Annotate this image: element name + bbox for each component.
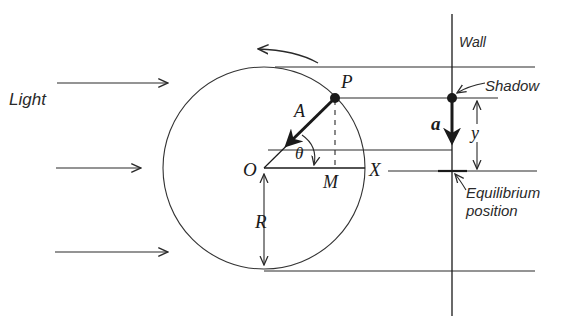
label-M: M (323, 173, 338, 191)
shadow-label: Shadow (485, 78, 539, 93)
label-A: A (294, 102, 305, 120)
label-R: R (255, 212, 267, 231)
point-P (330, 93, 340, 103)
label-a: a (431, 114, 441, 133)
equilibrium-leader-arrow (455, 174, 466, 190)
light-label: Light (9, 91, 46, 108)
projection-lines (264, 67, 537, 271)
equilibrium-label-line2: position (466, 203, 518, 218)
label-theta: θ (295, 145, 303, 162)
wall-label: Wall (459, 35, 486, 49)
shm-diagram (0, 0, 574, 324)
shadow-leader-arrow (457, 83, 485, 93)
light-rays (55, 83, 168, 252)
equilibrium-label-line1: Equilibrium (466, 185, 540, 200)
label-X: X (369, 160, 381, 179)
rotation-arrow-icon (258, 49, 318, 63)
label-P: P (341, 72, 353, 91)
label-O: O (243, 160, 257, 179)
label-y: y (470, 124, 480, 142)
